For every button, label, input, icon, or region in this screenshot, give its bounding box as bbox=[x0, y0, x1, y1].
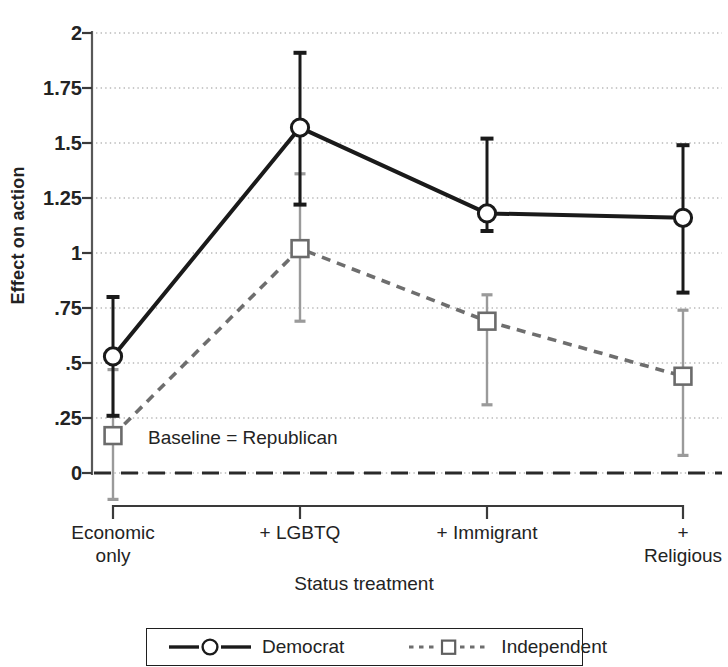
independent-data-point bbox=[675, 368, 692, 385]
x-axis-title: Status treatment bbox=[0, 573, 728, 595]
x-tick-label: Economic only bbox=[71, 521, 154, 567]
x-tick-label: + Religious bbox=[644, 521, 722, 567]
democrat-data-point bbox=[291, 119, 308, 136]
baseline-annotation: Baseline = Republican bbox=[148, 427, 338, 449]
democrat-data-point bbox=[104, 348, 121, 365]
legend-item-democrat: Democrat bbox=[167, 629, 344, 665]
chart-figure: Effect on action 21.751.51.251.75.5.250 … bbox=[0, 0, 728, 667]
independent-line-marker-icon bbox=[406, 637, 492, 657]
x-axis-bracket bbox=[113, 506, 683, 519]
legend-item-independent: Independent bbox=[406, 629, 607, 665]
independent-line bbox=[113, 249, 683, 436]
democrat-line-marker-icon bbox=[167, 637, 253, 657]
independent-data-point bbox=[292, 240, 309, 257]
democrat-data-point bbox=[478, 205, 495, 222]
legend-label-democrat: Democrat bbox=[262, 636, 344, 658]
democrat-line bbox=[113, 128, 683, 357]
democrat-data-point bbox=[674, 209, 691, 226]
x-tick-label: + Immigrant bbox=[437, 521, 538, 544]
x-tick-label: + LGBTQ bbox=[260, 521, 341, 544]
independent-data-point bbox=[479, 313, 496, 330]
legend-label-independent: Independent bbox=[501, 636, 607, 658]
independent-data-point bbox=[105, 427, 122, 444]
chart-legend: Democrat Independent bbox=[146, 628, 583, 666]
